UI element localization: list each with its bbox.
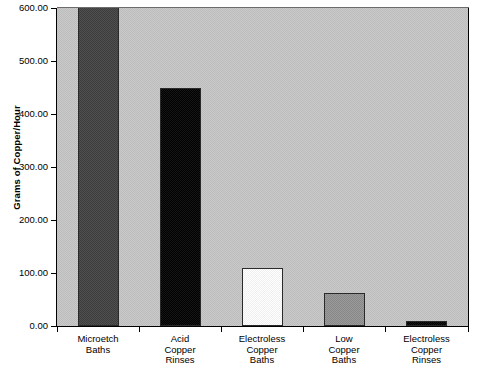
bar-acid-copper-rinses <box>160 88 201 326</box>
bar-microetch-baths <box>78 8 119 326</box>
y-tick-label-600: 600.00 <box>2 3 48 13</box>
x-axis-tick-5 <box>468 327 469 332</box>
x-label-line: Acid <box>139 334 221 345</box>
x-label-acid-copper-rinses: Acid Copper Rinses <box>139 334 221 366</box>
y-tick-label-0: 0.00 <box>2 321 48 331</box>
x-label-line: Low <box>303 334 385 345</box>
x-label-low-copper-baths: Low Copper Baths <box>303 334 385 366</box>
x-axis-line <box>56 326 469 327</box>
bar-chart: Grams of Copper/Hour 600.00 500.00 400.0… <box>0 0 477 374</box>
bar-low-copper-baths <box>324 293 365 326</box>
x-label-microetch-baths: Microetch Baths <box>57 334 139 355</box>
x-axis-tick-4 <box>385 327 386 332</box>
x-label-electroless-copper-baths: Electroless Copper Baths <box>221 334 303 366</box>
y-tick-label-400: 400.00 <box>2 109 48 119</box>
y-axis-tick-labels: 600.00 500.00 400.00 300.00 200.00 100.0… <box>0 0 48 374</box>
y-tick-label-100: 100.00 <box>2 268 48 278</box>
x-label-line: Rinses <box>139 355 221 366</box>
x-label-line: Baths <box>57 345 139 356</box>
x-axis-tick-1 <box>139 327 140 332</box>
plot-area <box>57 8 469 326</box>
y-tick-label-200: 200.00 <box>2 215 48 225</box>
x-axis-tick-3 <box>303 327 304 332</box>
x-axis-tick-0 <box>57 327 58 332</box>
bar-electroless-copper-baths <box>242 268 283 326</box>
y-tick-label-300: 300.00 <box>2 162 48 172</box>
x-axis-tick-2 <box>221 327 222 332</box>
x-label-line: Microetch <box>57 334 139 345</box>
y-tick-label-500: 500.00 <box>2 56 48 66</box>
x-label-line: Baths <box>303 355 385 366</box>
x-label-line: Baths <box>221 355 303 366</box>
x-label-line: Electroless <box>385 334 468 345</box>
x-label-line: Rinses <box>385 355 468 366</box>
x-label-line: Electroless <box>221 334 303 345</box>
x-label-electroless-copper-rinses: Electroless Copper Rinses <box>385 334 468 366</box>
